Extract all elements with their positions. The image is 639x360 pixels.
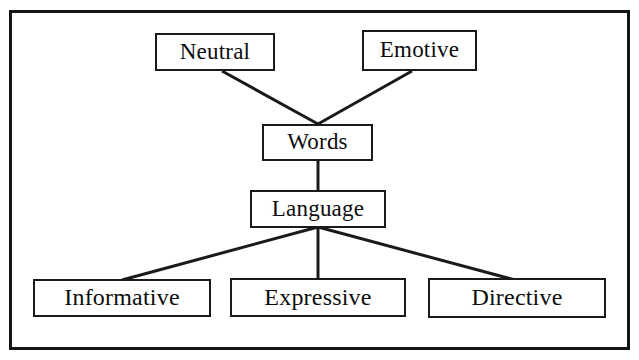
diagram-root: Neutral Emotive Words Language Informati… bbox=[0, 0, 639, 360]
edge-emotive-to-words bbox=[318, 71, 412, 124]
node-neutral: Neutral bbox=[155, 33, 275, 71]
node-language-label: Language bbox=[272, 197, 364, 222]
node-expressive-label: Expressive bbox=[264, 285, 371, 311]
node-emotive-label: Emotive bbox=[380, 38, 459, 63]
edge-neutral-to-words bbox=[222, 71, 318, 124]
node-expressive: Expressive bbox=[230, 278, 406, 317]
node-language: Language bbox=[250, 190, 386, 228]
edge-language-to-informative bbox=[122, 227, 318, 280]
node-words-label: Words bbox=[287, 130, 347, 155]
node-informative-label: Informative bbox=[64, 285, 180, 311]
edge-language-to-directive bbox=[318, 227, 515, 280]
node-directive: Directive bbox=[428, 278, 606, 318]
node-emotive: Emotive bbox=[362, 30, 477, 71]
node-neutral-label: Neutral bbox=[180, 40, 250, 65]
node-informative: Informative bbox=[33, 279, 211, 317]
node-words: Words bbox=[262, 124, 373, 161]
node-directive-label: Directive bbox=[471, 285, 562, 311]
